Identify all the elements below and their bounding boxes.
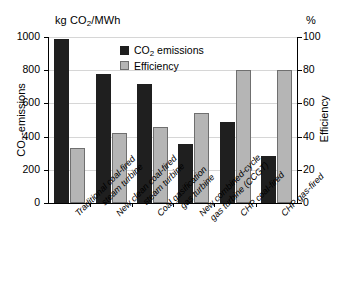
axis-tick xyxy=(298,137,302,138)
axis-tick xyxy=(298,103,302,104)
legend-swatch-efficiency xyxy=(120,61,129,70)
left-tick-label: 400 xyxy=(0,130,40,142)
axis-tick xyxy=(298,70,302,71)
axis-tick xyxy=(44,103,48,104)
axis-tick xyxy=(44,203,48,204)
bar-group xyxy=(54,37,85,203)
left-axis-unit: kg CO2/MWh xyxy=(55,14,120,28)
legend-swatch-co2 xyxy=(120,46,129,55)
left-tick-label: 200 xyxy=(0,163,40,175)
co2-efficiency-bar-chart: kg CO2/MWh % CO2-emissions Efficiency 02… xyxy=(0,0,341,293)
axis-tick xyxy=(44,137,48,138)
left-tick-label: 1000 xyxy=(0,30,40,42)
right-tick-label: 100 xyxy=(303,30,337,42)
axis-tick xyxy=(44,37,48,38)
axis-tick xyxy=(298,37,302,38)
right-tick-label: 0 xyxy=(303,196,337,208)
axis-tick xyxy=(298,170,302,171)
legend-label-co2: CO2 emissions xyxy=(134,44,204,58)
left-tick-label: 0 xyxy=(0,196,40,208)
gridline xyxy=(49,137,297,138)
left-tick-label: 600 xyxy=(0,96,40,108)
right-axis-title: Efficiency xyxy=(318,73,330,165)
legend-item-co2: CO2 emissions xyxy=(120,43,204,58)
gridline xyxy=(49,103,297,104)
legend-item-efficiency: Efficiency xyxy=(120,58,204,73)
right-axis-unit: % xyxy=(306,14,316,26)
right-tick-label: 80 xyxy=(303,63,337,75)
gridline xyxy=(49,37,297,38)
right-tick-label: 40 xyxy=(303,130,337,142)
left-axis-title: CO2-emissions xyxy=(15,74,29,166)
axis-tick xyxy=(44,170,48,171)
bar-efficiency xyxy=(70,148,85,203)
axis-tick xyxy=(44,70,48,71)
right-tick-label: 60 xyxy=(303,96,337,108)
chart-legend: CO2 emissions Efficiency xyxy=(120,43,204,73)
legend-label-efficiency: Efficiency xyxy=(134,60,179,72)
bar-co2-emissions xyxy=(54,39,69,203)
left-tick-label: 800 xyxy=(0,63,40,75)
